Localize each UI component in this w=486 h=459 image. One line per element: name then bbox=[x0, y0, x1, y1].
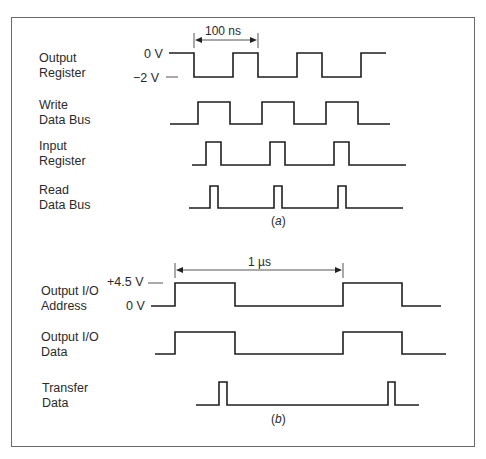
waveform-write-data-bus bbox=[170, 102, 390, 124]
signal-label-line1: Input bbox=[39, 139, 86, 154]
signal-label-output-register: Output Register bbox=[39, 51, 86, 81]
signal-label-line2: Data Bus bbox=[39, 113, 90, 128]
waveform-read-data-bus bbox=[189, 186, 403, 208]
waveforms bbox=[151, 53, 446, 405]
signal-label-line1: Output I/O bbox=[41, 330, 99, 345]
signal-label-write-data-bus: Write Data Bus bbox=[39, 98, 90, 128]
waveform-output-io-address bbox=[151, 283, 441, 306]
signal-label-line2: Data Bus bbox=[39, 198, 90, 213]
voltage-label-0v-b: 0 V bbox=[126, 299, 145, 313]
signal-label-line2: Data bbox=[42, 396, 88, 411]
signal-label-transfer-data: Transfer Data bbox=[42, 381, 88, 411]
signal-label-line2: Register bbox=[39, 66, 86, 81]
voltage-label-4-5v: +4.5 V bbox=[107, 275, 144, 289]
dimension-label-100ns: 100 ns bbox=[205, 24, 241, 38]
signal-label-line1: Read bbox=[39, 183, 90, 198]
signal-label-line2: Address bbox=[41, 299, 99, 314]
waveform-output-io-data bbox=[155, 332, 446, 354]
signal-label-input-register: Input Register bbox=[39, 139, 86, 169]
voltage-label-minus2v: −2 V bbox=[133, 71, 159, 85]
signal-label-line1: Output bbox=[39, 51, 86, 66]
waveform-input-register bbox=[192, 142, 406, 165]
signal-label-output-io-data: Output I/O Data bbox=[41, 330, 99, 360]
panel-caption-a: (a) bbox=[271, 214, 286, 228]
signal-label-line1: Transfer bbox=[42, 381, 88, 396]
waveform-output-register bbox=[169, 53, 386, 77]
signal-label-read-data-bus: Read Data Bus bbox=[39, 183, 90, 213]
panel-caption-b: (b) bbox=[271, 412, 286, 426]
voltage-label-0v: 0 V bbox=[144, 47, 163, 61]
signal-label-line1: Write bbox=[39, 98, 90, 113]
dimension-label-1us: 1 µs bbox=[248, 255, 271, 269]
signal-label-line2: Data bbox=[41, 345, 99, 360]
waveform-transfer-data bbox=[196, 382, 419, 405]
dimension-markers bbox=[175, 33, 343, 278]
signal-label-line2: Register bbox=[39, 154, 86, 169]
signal-label-output-io-address: Output I/O Address bbox=[41, 284, 99, 314]
signal-label-line1: Output I/O bbox=[41, 284, 99, 299]
